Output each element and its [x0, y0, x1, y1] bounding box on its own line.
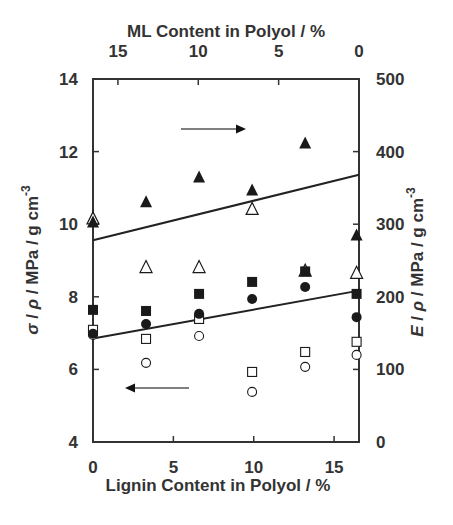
y2-tick-label: 300 — [376, 215, 404, 234]
x-tick-label: 15 — [325, 458, 344, 477]
filled-square-marker — [194, 289, 204, 299]
ticks: 0510151510504681012140100200300400500 — [59, 42, 404, 477]
y2-tick-label: 400 — [376, 143, 404, 162]
y2-tick-label: 200 — [376, 288, 404, 307]
trend-lines — [93, 175, 359, 339]
filled-triangle-marker — [299, 136, 311, 148]
y2-tick-label: 0 — [376, 433, 385, 452]
filled-circle-marker — [194, 309, 204, 319]
left-axis-title-text: σ / ρ / MPa / g cm-3 — [19, 185, 42, 335]
y2-tick-label: 100 — [376, 360, 404, 379]
filled-square-marker — [88, 305, 98, 315]
y-tick-label: 8 — [69, 288, 78, 307]
open-triangle-marker — [193, 261, 205, 273]
open-circle-marker — [142, 358, 151, 367]
open-square-marker — [142, 334, 151, 343]
filled-triangle-marker — [246, 184, 258, 196]
arrow-left-icon — [125, 384, 135, 393]
y-tick-label: 6 — [69, 360, 78, 379]
open-circle-marker — [352, 350, 361, 359]
filled-triangle-marker — [351, 229, 363, 241]
x-tick-label: 0 — [88, 458, 97, 477]
filled-circle-marker — [141, 319, 151, 329]
top-axis-title: ML Content in Polyol / % — [127, 22, 325, 41]
x2-tick-label: 5 — [274, 42, 283, 61]
x-tick-label: 10 — [244, 458, 263, 477]
trend-line — [93, 291, 359, 339]
open-triangle-marker — [140, 261, 152, 273]
filled-circle-marker — [247, 294, 257, 304]
y-tick-label: 10 — [59, 215, 78, 234]
bottom-axis-title: Lignin Content in Polyol / % — [106, 476, 331, 495]
filled-triangle-marker — [140, 195, 152, 207]
filled-circle-marker — [352, 312, 362, 322]
annotation-arrows — [125, 125, 246, 393]
filled-circle-marker — [300, 282, 310, 292]
filled-square-marker — [352, 289, 362, 299]
open-circle-marker — [301, 362, 310, 371]
arrow-right-icon — [236, 125, 246, 134]
x2-tick-label: 10 — [189, 42, 208, 61]
open-square-marker — [301, 347, 310, 356]
left-axis-title: σ / ρ / MPa / g cm-3 — [19, 185, 42, 335]
y-tick-label: 12 — [59, 143, 78, 162]
open-circle-marker — [248, 387, 257, 396]
y-tick-label: 14 — [59, 70, 78, 89]
open-square-marker — [352, 337, 361, 346]
filled-square-marker — [247, 277, 257, 287]
filled-square-marker — [300, 266, 310, 276]
y2-tick-label: 500 — [376, 70, 404, 89]
filled-triangle-marker — [193, 171, 205, 183]
filled-circle-marker — [88, 329, 98, 339]
open-triangle-marker — [246, 202, 258, 214]
y-tick-label: 4 — [69, 433, 79, 452]
open-circle-marker — [195, 332, 204, 341]
right-axis-title: E / ρ / MPa / g cm-3 — [404, 187, 427, 337]
trend-line — [93, 175, 359, 240]
chart-canvas: 0510151510504681012140100200300400500 ML… — [0, 0, 453, 525]
x2-tick-label: 0 — [354, 42, 363, 61]
data-points — [87, 136, 363, 396]
right-axis-title-text: E / ρ / MPa / g cm-3 — [404, 187, 427, 337]
filled-square-marker — [141, 306, 151, 316]
x-tick-label: 5 — [169, 458, 178, 477]
x2-tick-label: 15 — [108, 42, 127, 61]
open-triangle-marker — [351, 266, 363, 278]
chart: 0510151510504681012140100200300400500 ML… — [0, 0, 453, 525]
open-square-marker — [248, 367, 257, 376]
